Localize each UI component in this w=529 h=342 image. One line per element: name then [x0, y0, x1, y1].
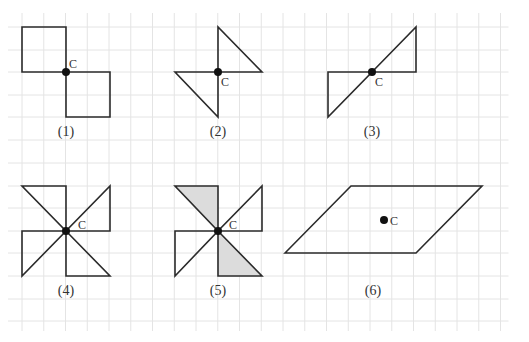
center-point-dot: [380, 216, 388, 224]
center-label: C: [78, 218, 86, 232]
center-label: C: [229, 218, 237, 232]
figure-3: C(3): [328, 27, 416, 140]
figure-5: C(5): [175, 186, 262, 299]
center-point-dot: [62, 227, 70, 235]
center-label: C: [221, 75, 229, 89]
center-label: C: [390, 214, 398, 228]
figure-caption: (3): [364, 124, 381, 140]
figure-4: C(4): [22, 186, 110, 299]
figure-caption: (6): [365, 283, 382, 299]
figure-caption: (5): [210, 283, 227, 299]
center-label: C: [375, 75, 383, 89]
geometry-grid-diagram: C(1)C(2)C(3)C(4)C(5)C(6): [0, 0, 529, 342]
center-label: C: [69, 57, 77, 71]
figure-caption: (1): [58, 124, 75, 140]
figure-caption: (4): [58, 283, 75, 299]
figure-1: C(1): [22, 27, 110, 140]
figure-6: C(6): [285, 186, 482, 299]
grid-lines: [8, 13, 509, 331]
center-point-dot: [214, 227, 222, 235]
figure-2: C(2): [175, 27, 262, 140]
figure-caption: (2): [210, 124, 227, 140]
